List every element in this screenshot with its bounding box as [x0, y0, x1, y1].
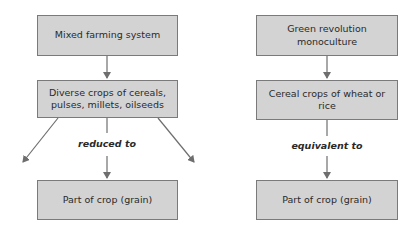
left-bottom-text: Part of crop (grain) — [63, 194, 153, 206]
right-top-box: Green revolution monoculture — [256, 15, 398, 56]
right-middle-box: Cereal crops of wheat or rice — [256, 80, 398, 120]
left-connector-label: reduced to — [47, 138, 167, 149]
left-middle-text: Diverse crops of cereals, pulses, millet… — [42, 87, 173, 112]
right-middle-text: Cereal crops of wheat or rice — [261, 88, 393, 113]
left-top-text: Mixed farming system — [55, 29, 160, 41]
right-connector-label: equivalent to — [267, 140, 387, 151]
right-top-text: Green revolution monoculture — [261, 23, 393, 48]
right-bottom-text: Part of crop (grain) — [282, 194, 372, 206]
left-top-box: Mixed farming system — [37, 15, 178, 56]
right-bottom-box: Part of crop (grain) — [256, 180, 398, 220]
left-bottom-box: Part of crop (grain) — [37, 180, 178, 220]
left-middle-box: Diverse crops of cereals, pulses, millet… — [37, 80, 178, 118]
